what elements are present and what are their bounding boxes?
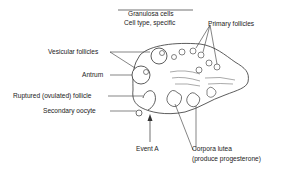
vesicular-follicle-1 (151, 48, 167, 64)
vesicular-follicle-2 (132, 66, 150, 84)
secondary-oocyte (136, 110, 142, 116)
label-secondary-oocyte: Secondary oocyte (43, 108, 96, 115)
label-antrum: Antrum (82, 72, 103, 79)
label-cell-type: Cell type, specific (124, 20, 175, 27)
label-primary-follicles: Primary follicles (208, 21, 254, 28)
ruptured-follicle (143, 91, 155, 110)
label-corpora-lutea: Corpora lutea (192, 146, 232, 153)
corpus-luteum-2 (187, 93, 200, 107)
label-ruptured-follicle: Ruptured (ovulated) follicle (13, 93, 91, 100)
corpus-luteum-1 (167, 90, 182, 106)
label-vesicular-follicles: Vesicular follicles (48, 49, 98, 56)
label-granulosa: Granulosa cells (128, 11, 173, 18)
label-event-a: Event A (136, 146, 159, 153)
label-corpora-lutea-note: (produce progesterone) (192, 156, 261, 163)
